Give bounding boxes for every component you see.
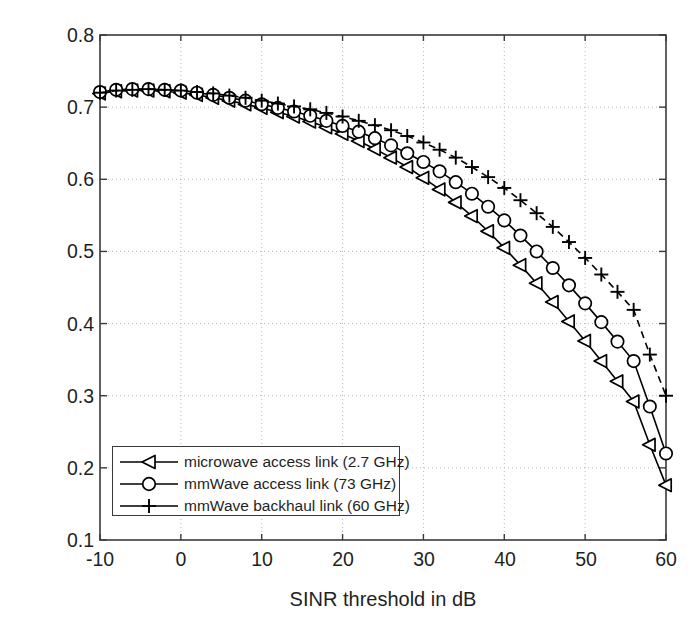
- y-tick-label: 0.7: [46, 96, 94, 119]
- legend-label: mmWave access link (73 GHz): [184, 475, 396, 493]
- y-tick-label: 0.4: [46, 313, 94, 336]
- triangle-left-icon: [118, 451, 180, 473]
- y-axis-tick-labels: 0.1 0.2 0.3 0.4 0.5 0.6 0.7 0.8: [42, 0, 94, 633]
- x-tick-label: 20: [332, 548, 354, 571]
- x-tick-label: 0: [176, 548, 187, 571]
- x-axis-label: SINR threshold in dB: [100, 588, 666, 611]
- plus-icon: [118, 495, 180, 517]
- y-tick-label: 0.6: [46, 168, 94, 191]
- x-tick-label: 40: [494, 548, 516, 571]
- circle-icon: [118, 473, 180, 495]
- legend-entry-microwave-access[interactable]: microwave access link (2.7 GHz): [113, 450, 399, 473]
- x-tick-label: 50: [575, 548, 597, 571]
- x-tick-label: 30: [413, 548, 435, 571]
- legend-entry-mmwave-backhaul[interactable]: mmWave backhaul link (60 GHz): [113, 494, 399, 517]
- legend-label: mmWave backhaul link (60 GHz): [184, 497, 410, 515]
- y-tick-label: 0.5: [46, 240, 94, 263]
- x-tick-label: -10: [86, 548, 114, 571]
- series-triangle-left: [93, 84, 671, 491]
- series-plus: [93, 82, 673, 403]
- y-tick-label: 0.8: [46, 24, 94, 47]
- legend[interactable]: microwave access link (2.7 GHz) mmWave a…: [112, 446, 400, 516]
- y-tick-label: 0.2: [46, 457, 94, 480]
- chart-figure: SINR coverage probability 0.1 0.2 0.3 0.…: [0, 0, 700, 633]
- y-tick-label: 0.3: [46, 385, 94, 408]
- data-series-layer: [93, 82, 673, 491]
- legend-entry-mmwave-access[interactable]: mmWave access link (73 GHz): [113, 472, 399, 495]
- plot-area: [0, 0, 700, 633]
- x-tick-label: 10: [251, 548, 273, 571]
- legend-label: microwave access link (2.7 GHz): [184, 453, 410, 471]
- x-tick-label: 60: [655, 548, 677, 571]
